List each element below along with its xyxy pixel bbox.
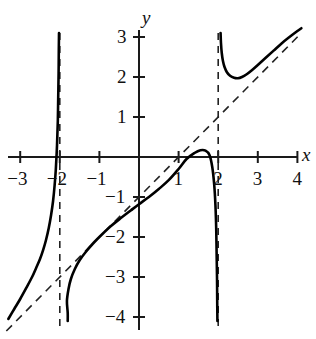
branch-right [221,28,302,78]
x-tick-label-3: 3 [253,169,263,188]
y-tick-label-1: 1 [117,107,127,126]
y-tick-label-−1: −1 [105,187,125,206]
y-tick-label-−3: −3 [105,267,125,286]
x-tick-label-2: 2 [213,169,223,188]
y-axis-name: y [142,8,150,27]
x-tick-label-1: 1 [174,169,184,188]
x-tick-label-−1: −1 [86,169,106,188]
y-tick-label-3: 3 [117,27,127,46]
x-tick-label-−2: −2 [47,169,67,188]
graph-figure: −3−2−11234 321−1−2−3−4 x y [0,0,316,339]
y-tick-label-−2: −2 [105,227,125,246]
y-tick-label-−4: −4 [105,307,125,326]
x-axis-name: x [302,145,310,164]
x-tick-label-−3: −3 [7,169,27,188]
y-tick-label-2: 2 [117,67,127,86]
x-tick-label-4: 4 [292,169,302,188]
